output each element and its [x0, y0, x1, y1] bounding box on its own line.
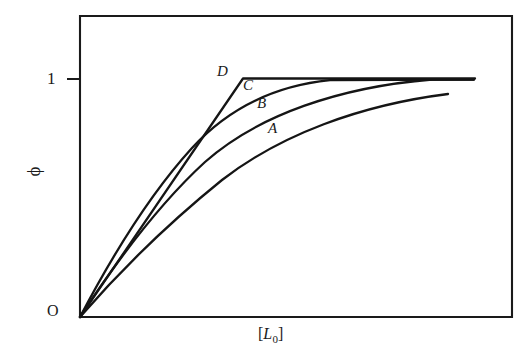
- curve-label-b: B: [257, 96, 266, 111]
- curve-label-a: A: [268, 121, 277, 136]
- curve-label-d: D: [217, 64, 228, 79]
- x-axis-title: [L0]: [258, 326, 283, 345]
- origin-label: O: [47, 303, 59, 319]
- curve-label-c: C: [243, 78, 253, 93]
- x-axis-title-bracket-close: ]: [278, 325, 283, 342]
- x-axis-title-symbol: L: [263, 325, 272, 342]
- y-tick-label-1: 1: [47, 70, 56, 87]
- curve-a: [80, 94, 448, 317]
- plot-canvas: [0, 0, 529, 358]
- curve-b: [80, 80, 474, 318]
- curve-c: [80, 80, 474, 318]
- figure-root: ϕ 1 O [L0] D C B A: [0, 0, 529, 358]
- curve-d: [80, 79, 475, 318]
- axis-frame: [80, 16, 512, 317]
- y-axis-title: ϕ: [24, 161, 43, 183]
